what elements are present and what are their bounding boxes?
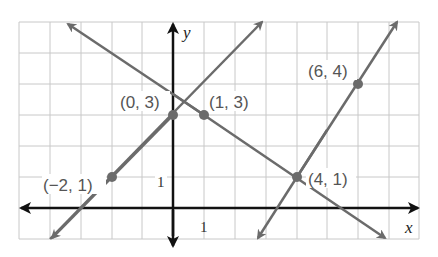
- point-1-3: [199, 110, 209, 120]
- x-axis-label: x: [404, 218, 413, 237]
- label-6-4: (6, 4): [308, 62, 348, 81]
- point-4-1: [292, 172, 302, 182]
- label-neg2-1: (−2, 1): [43, 176, 93, 195]
- grid: [19, 22, 419, 239]
- y-axis-label: y: [181, 23, 191, 42]
- label-1-3: (1, 3): [209, 93, 249, 112]
- x-tick-1: 1: [200, 219, 208, 235]
- y-tick-1: 1: [157, 174, 165, 190]
- point-6-4: [353, 79, 363, 89]
- label-4-1: (4, 1): [308, 170, 348, 189]
- lines: [50, 22, 397, 239]
- coordinate-plane: (0, 3) (1, 3) (−2, 1) (4, 1) (6, 4) y x …: [0, 0, 438, 257]
- label-0-3: (0, 3): [120, 93, 160, 112]
- point-0-3: [168, 110, 178, 120]
- point-neg2-1: [107, 172, 117, 182]
